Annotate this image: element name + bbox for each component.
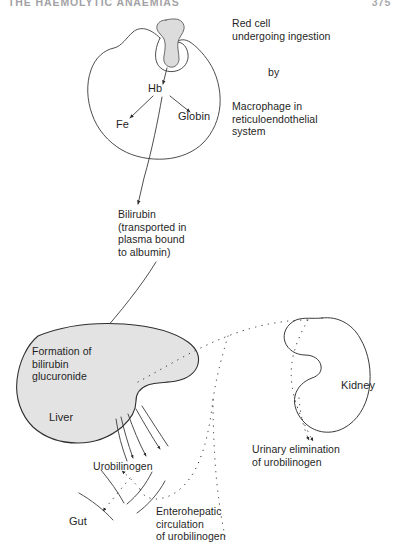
- bilirubin-metabolism-artwork: [0, 0, 399, 554]
- red-cell-shape: [157, 19, 184, 67]
- label-macrophage: Macrophage in reticuloendothelial system: [232, 100, 318, 138]
- dotted-return-to-urobilinogen: [122, 471, 140, 489]
- dotted-ureter: [299, 398, 309, 440]
- arrow-hb-to-fe: [130, 96, 153, 118]
- label-formation-of-bilirubin-glucuronide: Formation of bilirubin glucuronide: [32, 345, 92, 383]
- label-bilirubin: Bilirubin (transported in plasma bound t…: [118, 208, 186, 258]
- label-liver: Liver: [49, 411, 73, 424]
- label-by: by: [268, 66, 279, 79]
- bile-duct-b: [128, 414, 146, 456]
- label-urobilinogen: Urobilinogen: [93, 460, 153, 473]
- dotted-urobilinogen-to-gut: [103, 478, 130, 511]
- label-globin: Globin: [178, 110, 210, 123]
- arrow-hb-to-bilirubin: [138, 97, 162, 204]
- kidney-shape: [284, 318, 370, 433]
- label-gut: Gut: [69, 515, 87, 528]
- label-red-cell: Red cell undergoing ingestion: [232, 17, 331, 42]
- label-fe: Fe: [116, 118, 129, 131]
- label-kidney: Kidney: [341, 379, 375, 392]
- dotted-to-kidney: [291, 320, 313, 441]
- label-urinary-elimination: Urinary elimination of urobilinogen: [252, 443, 340, 468]
- gut-loop-right: [127, 472, 152, 504]
- label-hb: Hb: [148, 82, 162, 95]
- gut-loop-upper: [101, 470, 124, 503]
- figure-page: THE HAEMOLYTIC ANAEMIAS 375: [0, 0, 399, 554]
- liver-shape: [17, 324, 199, 444]
- label-enterohepatic-circulation: Enterohepatic circulation of urobilinoge…: [156, 505, 226, 543]
